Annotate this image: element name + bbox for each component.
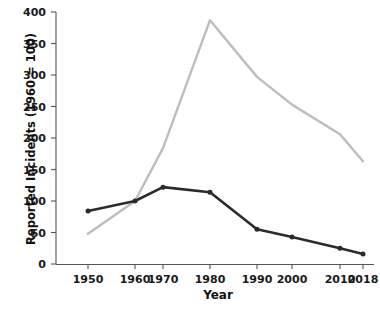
y-tick-label: 50: [0, 226, 46, 239]
data-point-marker: [361, 251, 366, 256]
data-series-group: [88, 20, 363, 254]
y-tick-label: 150: [0, 163, 46, 176]
data-point-marker: [338, 246, 343, 251]
data-point-marker: [161, 185, 166, 190]
plot-area: [0, 0, 380, 310]
y-tick-label: 400: [0, 6, 46, 19]
y-axis-title: Reported Incidents (1960 = 100): [24, 45, 38, 245]
data-point-marker: [255, 227, 260, 232]
x-tick-label: 1950: [73, 273, 104, 286]
y-tick-label: 300: [0, 69, 46, 82]
series-line-dark-series: [88, 187, 363, 254]
y-tick-label: 0: [0, 258, 46, 271]
x-tick-label: 2018: [348, 273, 379, 286]
line-chart: 050100150200250300350400 195019601970198…: [0, 0, 380, 310]
y-tick-label: 250: [0, 100, 46, 113]
x-axis-title: Year: [203, 288, 233, 302]
y-tick-label: 100: [0, 195, 46, 208]
y-axis-ticks: [51, 12, 56, 264]
axis-lines: [56, 12, 374, 265]
x-tick-label: 2000: [277, 273, 308, 286]
y-tick-label: 200: [0, 132, 46, 145]
data-point-marker: [133, 199, 138, 204]
x-tick-label: 1970: [148, 273, 179, 286]
x-tick-label: 1990: [242, 273, 273, 286]
y-tick-label: 350: [0, 37, 46, 50]
data-point-marker: [86, 209, 91, 214]
data-point-marker: [290, 234, 295, 239]
x-tick-label: 1960: [120, 273, 151, 286]
x-tick-label: 1980: [195, 273, 226, 286]
data-point-marker: [208, 190, 213, 195]
